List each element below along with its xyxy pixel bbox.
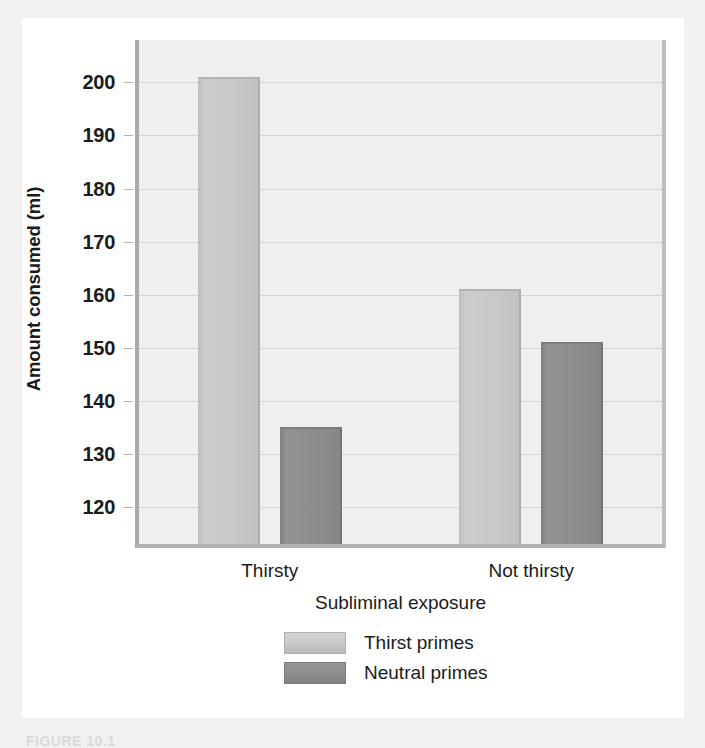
y-axis-tick-label: 120 (49, 495, 115, 518)
y-axis-tick-label: 170 (49, 230, 115, 253)
legend-label-thirst-primes: Thirst primes (364, 632, 474, 654)
y-axis-tick (124, 401, 133, 402)
y-axis-tick (124, 135, 133, 136)
y-axis-tick-label: 140 (49, 389, 115, 412)
y-axis-tick-label: 160 (49, 283, 115, 306)
legend-item: Thirst primes (0, 632, 705, 654)
legend-swatch-neutral-primes (284, 662, 346, 684)
y-axis-tick-label: 200 (49, 71, 115, 94)
legend-swatch-thirst-primes (284, 632, 346, 654)
bar-chart: Amount consumed (ml) 1201301401501601701… (0, 0, 705, 748)
plot-inner (139, 40, 662, 544)
bar-neutral-primes-not-thirsty (541, 342, 603, 544)
x-axis-category-label: Not thirsty (421, 560, 641, 582)
x-axis-title: Subliminal exposure (135, 592, 666, 614)
y-axis-tick (124, 242, 133, 243)
figure-caption: FIGURE 10.1 (26, 733, 116, 748)
bar-thirst-primes-thirsty (198, 77, 260, 544)
bar-thirst-primes-not-thirsty (459, 289, 521, 544)
y-axis-tick-label: 150 (49, 336, 115, 359)
y-axis-tick (124, 507, 133, 508)
y-axis-title: Amount consumed (ml) (23, 169, 45, 409)
y-axis-tick (124, 454, 133, 455)
chart-legend: Thirst primes Neutral primes (0, 632, 705, 692)
legend-label-neutral-primes: Neutral primes (364, 662, 488, 684)
y-axis-tick-label: 190 (49, 124, 115, 147)
y-axis-tick (124, 82, 133, 83)
y-axis-tick (124, 348, 133, 349)
y-axis-tick (124, 189, 133, 190)
plot-area (135, 40, 666, 548)
x-axis-category-label: Thirsty (160, 560, 380, 582)
y-axis-tick-label: 180 (49, 177, 115, 200)
legend-item: Neutral primes (0, 662, 705, 684)
y-axis-tick-label: 130 (49, 442, 115, 465)
y-axis-tick (124, 295, 133, 296)
bar-neutral-primes-thirsty (280, 427, 342, 544)
